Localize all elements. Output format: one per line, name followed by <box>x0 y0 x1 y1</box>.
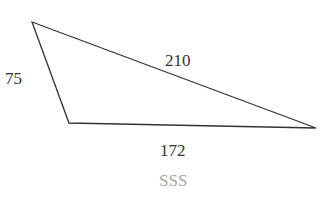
side-label-top: 210 <box>165 51 191 70</box>
triangle-shape <box>32 22 316 128</box>
side-label-bottom: 172 <box>160 141 186 160</box>
triangle-diagram: 75 210 172 SSS <box>0 0 335 207</box>
caption-sss: SSS <box>159 171 187 190</box>
side-label-left: 75 <box>5 69 22 88</box>
